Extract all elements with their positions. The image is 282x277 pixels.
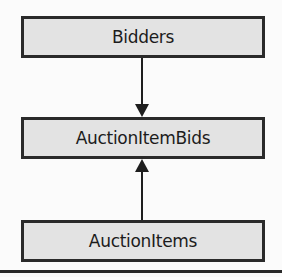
node-auctionitembids-label: AuctionItemBids (76, 128, 211, 148)
node-bidders: Bidders (21, 16, 265, 58)
edge-auctionitems-to-auctionitembids-line (141, 168, 143, 220)
node-auctionitems-label: AuctionItems (89, 231, 197, 251)
arrowhead-down-icon (135, 104, 149, 117)
bottom-divider (0, 270, 282, 273)
node-bidders-label: Bidders (112, 27, 174, 47)
edge-bidders-to-auctionitembids-line (141, 58, 143, 108)
node-auctionitembids: AuctionItemBids (21, 117, 265, 159)
node-auctionitems: AuctionItems (21, 220, 265, 262)
